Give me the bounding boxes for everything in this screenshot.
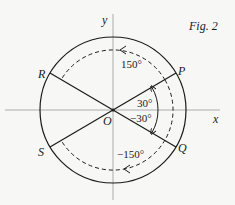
unit-circle-diagram: y x Fig. 2 O P Q R S 30° −30° 150° −150°: [0, 0, 235, 205]
x-axis-label: x: [212, 112, 219, 126]
angle-label-150: 150°: [121, 58, 142, 70]
origin-point: [111, 108, 114, 111]
point-label-S: S: [38, 145, 44, 159]
arc-minus-30: [152, 110, 158, 133]
origin-label: O: [103, 114, 112, 128]
angle-label-30: 30°: [137, 97, 152, 109]
y-axis-label: y: [101, 13, 108, 27]
arrow-minus-150-icon: [124, 165, 130, 173]
figure-caption: Fig. 2: [188, 19, 218, 33]
point-label-P: P: [177, 64, 186, 78]
point-label-R: R: [37, 67, 46, 81]
angle-label-minus-30: −30°: [130, 112, 152, 124]
arrow-150-icon: [120, 46, 126, 54]
angle-label-minus-150: −150°: [117, 148, 144, 160]
arc-30: [152, 88, 158, 111]
point-label-Q: Q: [178, 141, 187, 155]
